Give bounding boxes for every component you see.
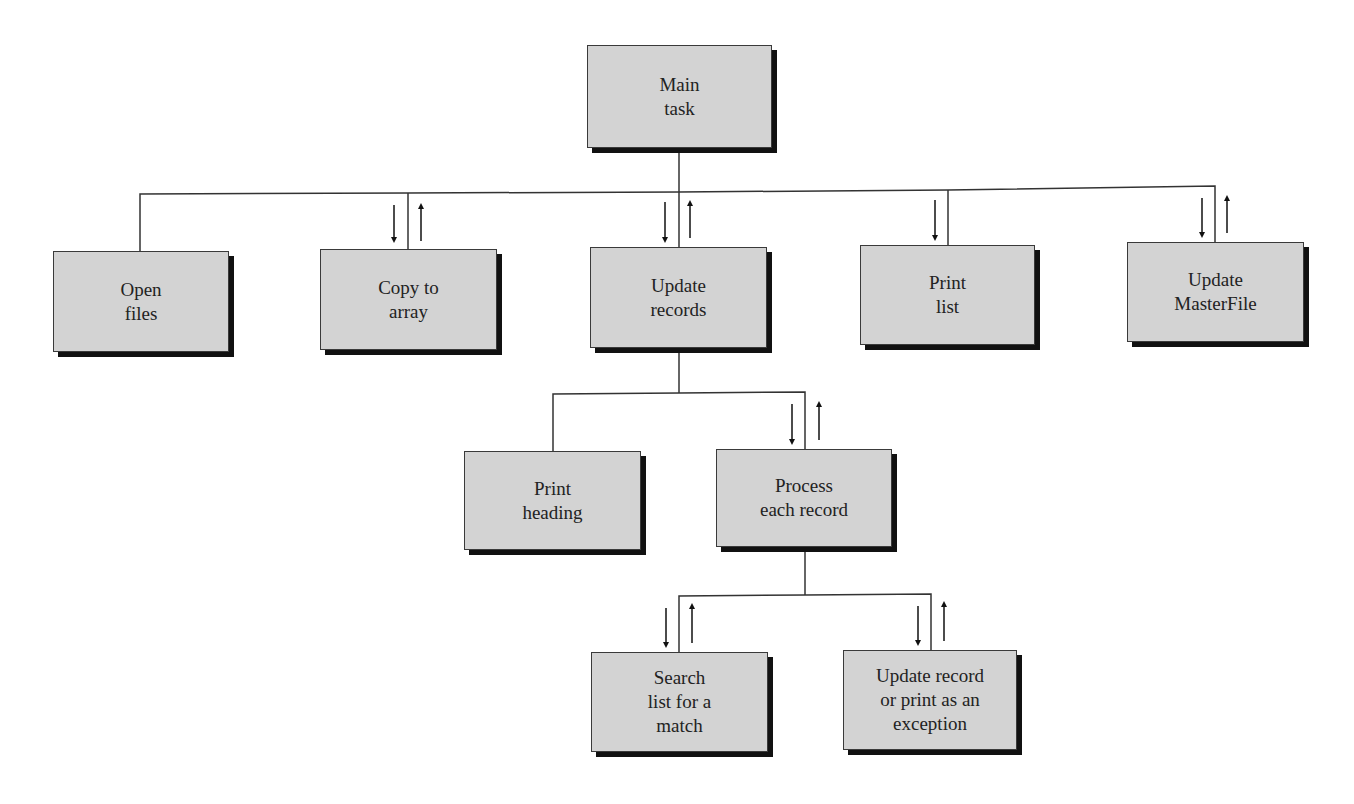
node-label: Update MasterFile	[1174, 268, 1256, 316]
node-update-records: Update records	[590, 247, 767, 348]
node-update-masterfile: Update MasterFile	[1127, 242, 1304, 342]
node-main-task: Main task	[587, 45, 772, 148]
node-print-list: Print list	[860, 245, 1035, 345]
node-label: Print list	[929, 271, 966, 319]
node-label: Main task	[659, 73, 699, 121]
node-label: Process each record	[760, 474, 848, 522]
node-copy-to-array: Copy to array	[320, 249, 497, 350]
node-open-files: Open files	[53, 251, 229, 352]
node-process-each-record: Process each record	[716, 449, 892, 547]
data-flow-arrows	[394, 198, 1227, 645]
node-label: Update records	[651, 274, 707, 322]
node-update-record-or-exception: Update record or print as an exception	[843, 650, 1017, 750]
node-label: Print heading	[522, 477, 582, 525]
node-label: Search list for a match	[648, 666, 711, 738]
node-label: Open files	[120, 278, 161, 326]
node-search-list: Search list for a match	[591, 652, 768, 752]
node-print-heading: Print heading	[464, 451, 641, 550]
node-label: Copy to array	[378, 276, 439, 324]
node-label: Update record or print as an exception	[876, 664, 984, 736]
